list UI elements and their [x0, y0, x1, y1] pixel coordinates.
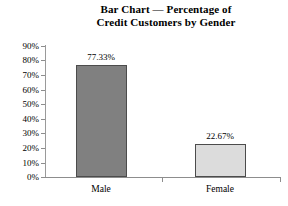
y-tick-mark-90 — [41, 46, 45, 47]
y-axis-line — [45, 45, 46, 178]
bar-value-female: 22.67% — [175, 132, 265, 141]
y-tick-label-0: 0% — [0, 173, 39, 182]
bar-male — [76, 65, 127, 177]
y-tick-mark-80 — [41, 60, 45, 61]
y-tick-label-20: 20% — [0, 144, 39, 153]
y-tick-mark-30 — [41, 133, 45, 134]
x-tick-mark-center — [162, 178, 163, 182]
y-tick-mark-50 — [41, 104, 45, 105]
y-tick-label-10: 10% — [0, 159, 39, 168]
y-tick-label-60: 60% — [0, 86, 39, 95]
y-tick-label-80: 80% — [0, 56, 39, 65]
y-tick-label-90: 90% — [0, 42, 39, 51]
y-tick-mark-60 — [41, 90, 45, 91]
y-tick-label-40: 40% — [0, 115, 39, 124]
y-tick-mark-0 — [41, 177, 45, 178]
plot-area: 90% 80% 70% 60% 50% 40% 30% 20% 10% 0% 7… — [0, 0, 288, 206]
bar-female — [195, 144, 246, 177]
y-tick-label-70: 70% — [0, 71, 39, 80]
bar-chart: Bar Chart — Percentage of Credit Custome… — [0, 0, 288, 206]
y-tick-mark-70 — [41, 75, 45, 76]
y-tick-label-50: 50% — [0, 100, 39, 109]
y-tick-mark-40 — [41, 119, 45, 120]
y-tick-label-30: 30% — [0, 129, 39, 138]
y-tick-mark-20 — [41, 148, 45, 149]
x-axis-line — [45, 177, 281, 178]
x-tick-mark-end — [280, 178, 281, 182]
x-category-label-male: Male — [51, 184, 151, 195]
x-category-label-female: Female — [170, 184, 270, 195]
y-tick-mark-10 — [41, 163, 45, 164]
bar-value-male: 77.33% — [56, 53, 146, 62]
